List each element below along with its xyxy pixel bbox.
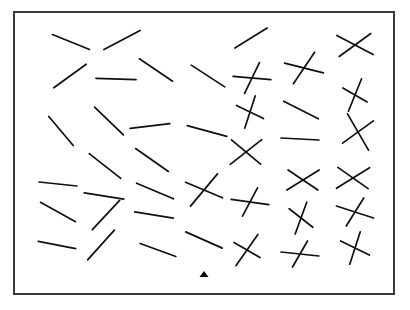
crossed-line-item	[237, 96, 264, 128]
line-stroke	[339, 34, 371, 57]
crossed-line-item	[287, 170, 319, 190]
crossed-line-item	[336, 167, 369, 188]
fixation-triangle-icon	[200, 271, 209, 277]
crossed-line-item	[341, 232, 370, 264]
crossed-line-item	[186, 174, 223, 206]
single-line-item	[136, 149, 169, 172]
line-stroke	[346, 198, 363, 226]
crossed-line-item	[337, 34, 373, 57]
single-line-item	[104, 30, 140, 49]
line-stroke	[281, 138, 319, 140]
single-line-item	[96, 78, 136, 79]
single-line-item	[281, 138, 319, 140]
crossed-line-item	[289, 202, 313, 234]
line-stroke	[41, 202, 76, 221]
crossed-line-item	[230, 140, 262, 165]
line-stroke	[92, 200, 119, 229]
line-stroke	[289, 209, 313, 227]
line-stroke	[284, 101, 319, 119]
fixation-layer	[200, 271, 209, 277]
line-stroke	[95, 107, 124, 135]
line-stroke	[191, 65, 225, 87]
single-line-item	[137, 183, 174, 199]
crossed-line-item	[281, 241, 319, 267]
line-stroke	[186, 232, 223, 248]
single-line-item	[135, 212, 174, 218]
line-stroke	[84, 193, 124, 199]
line-stroke	[343, 88, 367, 102]
crossed-line-item	[231, 188, 269, 216]
stimulus-page	[0, 0, 410, 310]
line-stroke	[88, 230, 115, 260]
line-stroke	[187, 126, 227, 137]
line-stroke	[139, 59, 172, 81]
line-stroke	[38, 241, 75, 248]
crossed-line-item	[336, 198, 373, 226]
line-stroke	[186, 182, 223, 198]
line-stroke	[54, 64, 86, 88]
single-line-item	[54, 64, 86, 88]
single-line-item	[187, 126, 227, 137]
line-stroke	[135, 212, 174, 218]
single-line-item	[139, 59, 172, 81]
single-line-item	[191, 65, 225, 87]
single-line-item	[88, 230, 115, 260]
single-line-item	[39, 182, 77, 186]
line-items-layer	[38, 28, 373, 267]
crossed-line-item	[343, 79, 367, 111]
line-stroke	[39, 182, 77, 186]
single-line-item	[140, 244, 176, 257]
single-line-item	[84, 193, 124, 199]
crossed-line-item	[343, 114, 374, 150]
single-line-item	[95, 107, 124, 135]
single-line-item	[38, 241, 75, 248]
crossed-line-item	[285, 52, 324, 84]
single-line-item	[235, 28, 267, 48]
single-line-item	[49, 116, 73, 145]
line-stroke	[237, 105, 264, 118]
line-stroke	[293, 52, 314, 84]
line-stroke	[136, 149, 169, 172]
single-line-item	[186, 232, 223, 248]
line-stroke	[234, 243, 260, 258]
line-stroke	[96, 78, 136, 79]
single-line-item	[130, 124, 170, 129]
crossed-line-item	[234, 234, 260, 265]
line-stroke	[49, 116, 73, 145]
line-stroke	[343, 121, 374, 143]
line-stroke	[341, 241, 370, 255]
single-line-item	[52, 35, 89, 50]
crossed-line-item	[233, 63, 271, 94]
line-stroke	[89, 154, 121, 179]
single-line-item	[41, 202, 76, 221]
line-stroke	[130, 124, 170, 129]
line-stroke	[104, 30, 140, 49]
line-stroke	[52, 35, 89, 50]
line-stroke	[137, 183, 174, 199]
single-line-item	[92, 200, 119, 229]
line-stroke	[235, 28, 267, 48]
line-stroke	[140, 244, 176, 257]
single-line-item	[89, 154, 121, 179]
stimulus-canvas	[0, 0, 410, 310]
single-line-item	[284, 101, 319, 119]
